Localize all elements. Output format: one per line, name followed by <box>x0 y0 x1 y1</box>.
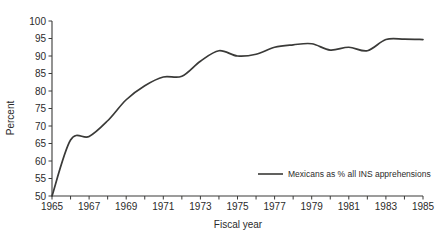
x-tick-label: 1985 <box>412 201 435 212</box>
y-tick-label: 70 <box>35 121 47 132</box>
x-tick-label: 1979 <box>301 201 324 212</box>
y-axis-tick-labels: 50556065707580859095100 <box>29 16 46 202</box>
y-tick-label: 50 <box>35 191 47 202</box>
x-tick-label: 1969 <box>115 201 138 212</box>
line-chart: 50556065707580859095100 1965196719691971… <box>0 0 439 240</box>
chart-figure: 50556065707580859095100 1965196719691971… <box>0 0 439 240</box>
y-tick-label: 80 <box>35 86 47 97</box>
y-tick-label: 95 <box>35 33 47 44</box>
y-tick-label: 75 <box>35 103 47 114</box>
y-tick-label: 90 <box>35 51 47 62</box>
x-tick-label: 1967 <box>78 201 101 212</box>
x-tick-label: 1981 <box>338 201 361 212</box>
x-tick-label: 1971 <box>152 201 175 212</box>
y-tick-label: 85 <box>35 68 47 79</box>
y-axis-title: Percent <box>5 101 16 136</box>
x-tick-label: 1983 <box>375 201 398 212</box>
y-tick-label: 55 <box>35 173 47 184</box>
x-tick-label: 1975 <box>226 201 249 212</box>
x-tick-label: 1973 <box>189 201 212 212</box>
y-tick-label: 65 <box>35 138 47 149</box>
y-tick-label: 60 <box>35 156 47 167</box>
x-axis-ticks <box>52 196 423 200</box>
x-axis-title: Fiscal year <box>214 219 263 230</box>
x-tick-label: 1977 <box>263 201 286 212</box>
x-axis-tick-labels: 1965196719691971197319751977197919811983… <box>41 201 435 212</box>
x-tick-label: 1965 <box>41 201 64 212</box>
chart-legend: Mexicans as % all INS apprehensions <box>258 169 431 179</box>
y-tick-label: 100 <box>29 16 46 27</box>
legend-label-mexicans: Mexicans as % all INS apprehensions <box>288 169 431 179</box>
